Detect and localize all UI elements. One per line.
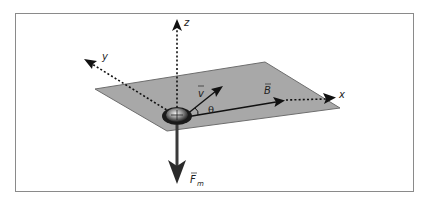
theta-label: θ bbox=[208, 104, 214, 115]
z-axis-label: z bbox=[183, 17, 190, 28]
positive-charge bbox=[162, 107, 192, 125]
force-label: F bbox=[190, 174, 196, 185]
b-field-label: B bbox=[264, 85, 271, 96]
diagram-canvas: z y x v B θ F m bbox=[0, 0, 428, 206]
force-label-subscript: m bbox=[197, 180, 204, 188]
y-axis-label: y bbox=[101, 51, 109, 62]
x-axis-label: x bbox=[338, 89, 345, 100]
